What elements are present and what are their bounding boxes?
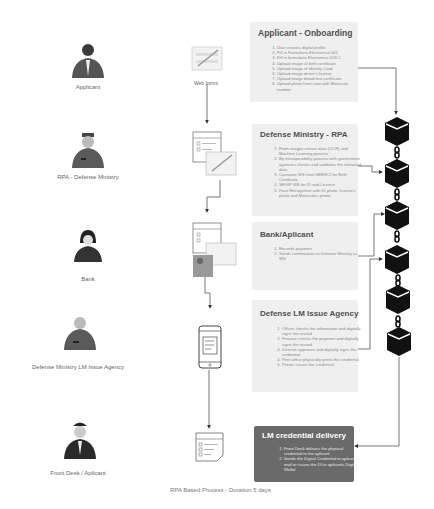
step-list: User creates digital profile Fill in For… [267, 45, 363, 92]
step-box-defense-ministry-rpa: Defense Ministry - RPA From images extra… [252, 124, 358, 216]
blockchain-block-icon [385, 159, 409, 188]
step-box-defense-lm-issue-agency: Defense LM Issue Agency Officer checks t… [252, 300, 358, 392]
blockchain-block-icon [385, 117, 409, 146]
step-box-bank-applicant: Bank/Aplicant Records payment Sends conf… [252, 222, 358, 290]
step-list: From images extract data (OCR) and Machi… [269, 146, 363, 198]
checklist-form-icon [193, 132, 236, 175]
step-list: Front Desk delivers the physical credent… [274, 446, 360, 472]
step-title: Defense Ministry - RPA [260, 130, 347, 139]
step-box-applicant-onboarding: Applicant - Onboarding User creates digi… [250, 22, 358, 102]
step-title: Defense LM Issue Agency [260, 309, 358, 318]
web-form-icon [192, 47, 222, 70]
blockchain-block-icon [385, 201, 409, 230]
doc-label-web-forms: Web forms [194, 80, 218, 86]
actor-rpa-officer-icon [72, 133, 104, 168]
actor-label-front-desk: Front Desk / Aplicant [50, 470, 105, 476]
mobile-checklist-icon [199, 326, 221, 368]
actor-front-desk-pilot-icon [64, 423, 96, 460]
actor-label-applicant: Applicant [76, 84, 101, 90]
connectors-layer [0, 0, 434, 509]
step-item: Front Desk delivers the physical credent… [284, 446, 360, 456]
actor-label-rpa-defense-ministry: RPA - Defense Ministry [57, 174, 119, 180]
step-item: By interoperability process with governm… [279, 156, 363, 172]
step-item: Finance checks the payment and digitally… [282, 336, 364, 346]
step-item: Director approves and digitally signs th… [282, 347, 364, 357]
actor-issue-agency-officer-icon [64, 317, 96, 350]
actor-bank-woman-icon [74, 230, 102, 262]
step-item: Consume WS from SERECI for Birth Certifi… [279, 172, 363, 182]
step-item: Sends the Digital Credential to aplicant… [284, 456, 360, 472]
actor-label-issue-agency: Defense Ministry LM Issue Agency [32, 364, 124, 370]
step-list: Records payment Sends confirmation to De… [269, 246, 363, 262]
checklist-note-icon [196, 433, 223, 461]
step-item: Face Recognition with ID photo, license'… [279, 188, 363, 198]
chain-to-box5 [355, 357, 399, 446]
step-item: Officer checks the information and digit… [282, 326, 364, 336]
step-item: Sends confirmation to Defense Ministry a… [279, 251, 363, 261]
actor-applicant-icon [72, 44, 104, 78]
blockchain-block-icon [387, 327, 411, 356]
step-item: Upload photo front view with Matricula n… [277, 81, 363, 91]
flow-arrow-2 [207, 180, 220, 212]
step-list: Officer checks the information and digit… [272, 326, 364, 368]
flow-arrow-3 [205, 277, 210, 308]
blockchain-block-icon [385, 245, 409, 274]
actor-label-bank: Bank [81, 276, 95, 282]
step-item: From images extract data (OCR) and Machi… [279, 146, 363, 156]
blockchain-block-icon [386, 285, 410, 314]
diagram-caption: RPA Based Process - Duration 5 days [170, 487, 271, 493]
step-title: Applicant - Onboarding [258, 28, 352, 38]
step-box-lm-credential-delivery: LM credential delivery Front Desk delive… [254, 426, 354, 482]
box1-to-chain [358, 68, 396, 114]
step-item: Printer issues the credential [282, 362, 364, 367]
checklist-map-icon [193, 223, 236, 277]
step-title: LM credential delivery [262, 431, 346, 440]
step-title: Bank/Aplicant [260, 230, 313, 239]
